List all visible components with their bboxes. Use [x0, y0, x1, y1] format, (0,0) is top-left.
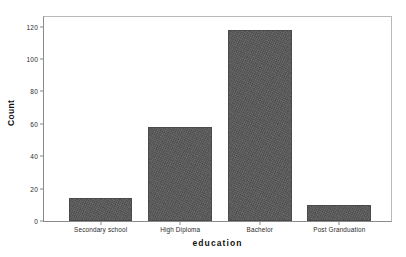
y-tick-label: 80 [30, 88, 40, 95]
x-tick-label-secondary-school: Secondary school [74, 226, 127, 233]
y-tick-label: 60 [30, 120, 40, 127]
x-tick-mark [100, 221, 101, 225]
y-tick-100: 100 [27, 55, 44, 64]
y-axis-title: Count [0, 0, 22, 225]
bar-bachelor[interactable] [228, 30, 292, 221]
bar-post-granduation[interactable] [307, 205, 371, 221]
x-tick-label-high-diploma: High Diploma [160, 226, 200, 233]
y-tick-60: 60 [30, 119, 44, 128]
bars-layer [44, 17, 391, 221]
x-tick-label-bachelor: Bachelor [247, 226, 273, 233]
y-tick-label: 120 [27, 23, 40, 30]
x-axis-title: education [43, 238, 392, 248]
y-tick-label: 20 [30, 185, 40, 192]
x-tick-mark [339, 221, 340, 225]
y-tick-40: 40 [30, 152, 44, 161]
x-tick-mark [259, 221, 260, 225]
y-tick-label: 40 [30, 153, 40, 160]
bar-high-diploma[interactable] [148, 127, 212, 221]
y-tick-120: 120 [27, 22, 44, 31]
x-tick-label-post-granduation: Post Granduation [313, 226, 365, 233]
y-tick-0: 0 [34, 217, 44, 226]
plot-area: 0 20 40 60 80 100 [43, 16, 392, 222]
y-tick-80: 80 [30, 87, 44, 96]
y-tick-20: 20 [30, 184, 44, 193]
x-tick-mark [180, 221, 181, 225]
bar-secondary-school[interactable] [69, 198, 133, 221]
bar-chart-figure: Count 0 20 40 60 80 [0, 0, 406, 257]
y-axis-title-label: Count [6, 99, 16, 125]
y-tick-label: 100 [27, 56, 40, 63]
